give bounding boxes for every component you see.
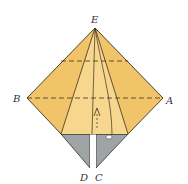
label-A: A xyxy=(165,95,173,106)
label-C: C xyxy=(95,172,103,183)
label-D: D xyxy=(79,172,88,183)
origami-diagram: E B A D C xyxy=(0,0,188,184)
gray-flap-left xyxy=(61,134,90,168)
gray-flap-right xyxy=(96,134,128,168)
label-E: E xyxy=(90,14,99,25)
center-slit xyxy=(90,134,96,168)
label-B: B xyxy=(12,93,20,104)
finger-mark xyxy=(106,135,112,139)
